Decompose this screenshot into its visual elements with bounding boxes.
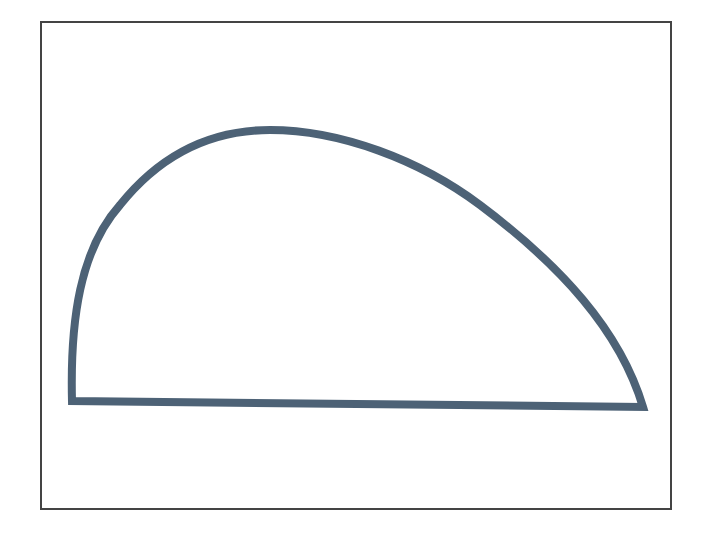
frame-border	[41, 22, 671, 509]
diagram-svg	[0, 0, 704, 533]
figure-canvas	[0, 0, 704, 533]
